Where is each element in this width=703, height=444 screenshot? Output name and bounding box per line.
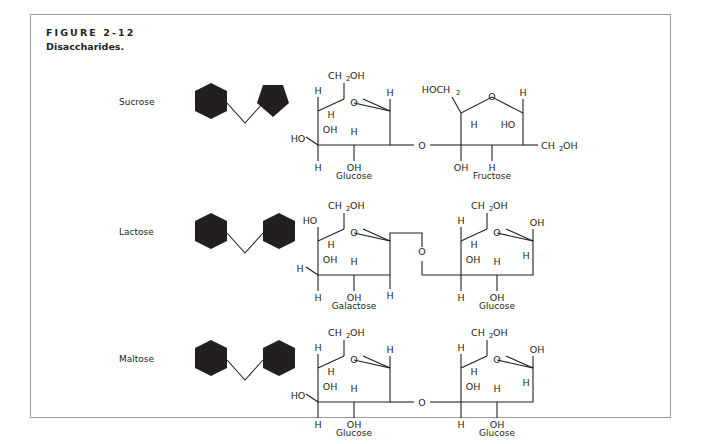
atom-h-top-left-right: H — [457, 215, 464, 226]
atom-h-lower-right: H — [522, 250, 529, 261]
atom-ho-top-left: HO — [303, 215, 318, 226]
atom-ring-oxygen: O — [350, 227, 357, 238]
sugar-label-galactose: Galactose — [299, 301, 409, 311]
atom-h-top-left: H — [314, 85, 321, 96]
atom-h-anomeric: H — [386, 290, 393, 301]
lactose-shape-icon — [191, 211, 301, 259]
figure-frame: FIGURE 2-12 Disaccharides. Sucrose CH 2 — [30, 14, 671, 418]
atom-ch2oh-tail: OH — [350, 327, 365, 338]
atom-linkage-oxygen: O — [418, 246, 425, 257]
disaccharide-row-maltose: Maltose CH 2 OH O H H OH — [31, 320, 672, 444]
atom-linkage-oxygen: O — [418, 397, 425, 408]
atom-oh-anomeric-right: OH — [530, 344, 545, 355]
atom-oh-upper-right: OH — [466, 381, 481, 392]
atom-hoch2-sub: 2 — [456, 89, 460, 97]
row-label-sucrose: Sucrose — [119, 97, 189, 107]
atom-h-top-left: H — [314, 342, 321, 353]
sugar-label-glucose-right: Glucose — [442, 428, 552, 438]
atom-h-top-left-right: H — [457, 342, 464, 353]
figure-number: FIGURE 2-12 — [46, 27, 136, 39]
atom-oh-upper: OH — [323, 124, 338, 135]
figure-caption: Disaccharides. — [46, 40, 136, 53]
atom-h-inner-right-right: H — [493, 383, 500, 394]
disaccharide-row-sucrose: Sucrose CH 2 OH O — [31, 63, 672, 188]
atom-h-anomeric: H — [386, 344, 393, 355]
atom-oh-upper-right: OH — [466, 254, 481, 265]
atom-h-anomeric: H — [386, 87, 393, 98]
atom-h-inner-right-right: H — [493, 256, 500, 267]
figure-header: FIGURE 2-12 Disaccharides. — [46, 27, 136, 53]
atom-ring-oxygen-fructose: O — [488, 91, 495, 102]
atom-ring-oxygen-right: O — [493, 354, 500, 365]
atom-h-inner-right: H — [350, 126, 357, 137]
atom-h-inner-left-right: H — [470, 366, 477, 377]
sugar-label-glucose-left: Glucose — [299, 171, 409, 181]
atom-ho-inner-fructose: HO — [501, 119, 516, 130]
atom-hoch2: HOCH — [422, 84, 450, 95]
atom-ho-left: HO — [291, 390, 306, 401]
atom-h-top-right: H — [519, 87, 526, 98]
atom-h-inner-left: H — [327, 366, 334, 377]
atom-ch2oh-right: CH — [471, 200, 485, 211]
atom-h-inner-right: H — [350, 256, 357, 267]
atom-oh-upper: OH — [323, 381, 338, 392]
atom-h-inner-fructose: H — [470, 119, 477, 130]
atom-oh-anomeric-right: OH — [530, 217, 545, 228]
atom-h-inner-left: H — [327, 109, 334, 120]
atom-h-left: H — [296, 263, 303, 274]
atom-ring-oxygen: O — [350, 97, 357, 108]
atom-ch2oh: CH — [328, 327, 342, 338]
atom-ch2oh-right-tail: OH — [493, 327, 508, 338]
atom-h-inner-right: H — [350, 383, 357, 394]
disaccharide-row-lactose: Lactose CH 2 OH O HO H — [31, 193, 672, 318]
lactose-structure: CH 2 OH O HO H OH H H OH H H — [286, 193, 666, 318]
atom-ch2oh: CH — [328, 200, 342, 211]
atom-ch2oh-fructose: CH — [541, 140, 555, 151]
atom-ring-oxygen: O — [350, 354, 357, 365]
atom-ch2oh-right-tail: OH — [493, 200, 508, 211]
row-label-lactose: Lactose — [119, 227, 189, 237]
maltose-structure: CH 2 OH O H H OH HO H OH H H O — [286, 320, 666, 444]
sugar-label-fructose: Fructose — [437, 171, 547, 181]
sucrose-shape-icon — [191, 81, 301, 129]
atom-oh-upper: OH — [323, 254, 338, 265]
atom-h-inner-left-right: H — [470, 239, 477, 250]
atom-h-inner-left: H — [327, 239, 334, 250]
atom-ch2oh-fructose-tail: OH — [563, 140, 578, 151]
atom-ho-left: HO — [291, 133, 306, 144]
atom-linkage-oxygen: O — [418, 140, 425, 151]
atom-h-lower-right: H — [522, 377, 529, 388]
row-label-maltose: Maltose — [119, 354, 189, 364]
atom-ring-oxygen-right: O — [493, 227, 500, 238]
atom-ch2oh-right: CH — [471, 327, 485, 338]
sugar-label-glucose-left: Glucose — [299, 428, 409, 438]
atom-ch2oh-tail: OH — [350, 200, 365, 211]
maltose-shape-icon — [191, 338, 301, 386]
atom-ch2oh: CH — [328, 70, 342, 81]
sucrose-structure: CH 2 OH O H H OH HO H OH — [286, 63, 666, 188]
atom-ch2oh-tail: OH — [350, 70, 365, 81]
sugar-label-glucose-right: Glucose — [442, 301, 552, 311]
